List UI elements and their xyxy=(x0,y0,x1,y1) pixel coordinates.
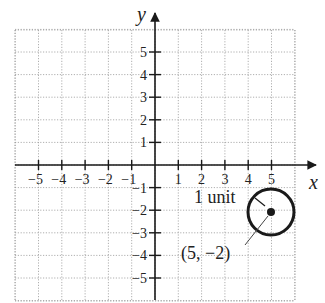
x-tick-label: −3 xyxy=(75,172,90,187)
x-tick-label: −4 xyxy=(51,172,66,187)
x-axis-ticks: −5−4−3−2−112345 xyxy=(28,160,275,187)
coordinate-plane-figure: −5−4−3−2−112345 54321−1−2−3−4−5 y x 1 un… xyxy=(0,0,325,303)
x-tick-label: 4 xyxy=(245,172,252,187)
y-tick-label: 4 xyxy=(140,68,147,83)
center-label: (5, −2) xyxy=(181,243,230,264)
x-axis-label: x xyxy=(308,171,318,193)
y-tick-label: −5 xyxy=(132,271,147,286)
x-tick-label: −2 xyxy=(98,172,113,187)
y-tick-label: −3 xyxy=(132,226,147,241)
x-tick-label: 1 xyxy=(175,172,182,187)
y-tick-label: −4 xyxy=(132,248,147,263)
x-tick-label: 5 xyxy=(268,172,275,187)
y-tick-label: −1 xyxy=(132,181,147,196)
x-tick-label: 3 xyxy=(221,172,228,187)
x-tick-label: 2 xyxy=(198,172,205,187)
y-tick-label: 5 xyxy=(140,45,147,60)
y-tick-label: 1 xyxy=(140,135,147,150)
y-axis-label: y xyxy=(135,3,146,26)
center-point xyxy=(267,208,275,216)
x-tick-label: −5 xyxy=(28,172,43,187)
radius-indicator xyxy=(255,198,265,206)
y-tick-label: 3 xyxy=(140,90,147,105)
radius-label: 1 unit xyxy=(194,187,236,207)
y-tick-label: −2 xyxy=(132,203,147,218)
y-tick-label: 2 xyxy=(140,113,147,128)
